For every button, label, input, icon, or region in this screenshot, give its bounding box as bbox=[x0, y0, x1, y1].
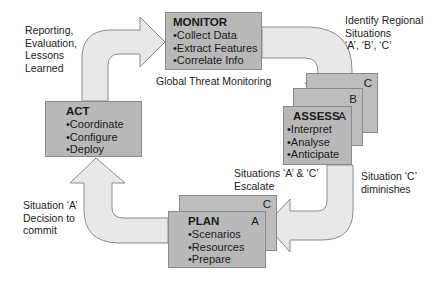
monitor-item: •Correlate Info bbox=[173, 54, 261, 67]
label-identify: Identify Regional Situations ‘A’, ‘B’, ‘… bbox=[345, 14, 423, 52]
monitor-item: •Collect Data bbox=[173, 29, 261, 42]
act-item: •Deploy bbox=[66, 143, 141, 156]
assess-item: •Analyse bbox=[287, 136, 351, 149]
plan-tag-a: A bbox=[251, 215, 259, 227]
arrow-act-to-monitor bbox=[82, 17, 165, 101]
assess-tag-a: A bbox=[338, 110, 346, 122]
label-escalate: Situations ‘A’ & ‘C’ Escalate bbox=[234, 167, 319, 192]
act-item: •Coordinate bbox=[66, 118, 141, 131]
monitor-caption: Global Threat Monitoring bbox=[156, 75, 271, 88]
arrow-plan-to-act bbox=[70, 158, 168, 243]
act-item: •Configure bbox=[66, 131, 141, 144]
monitor-title: MONITOR bbox=[173, 16, 261, 29]
assess-item: •Interpret bbox=[287, 123, 351, 136]
plan-box-a: A PLAN •Scenarios •Resources •Prepare bbox=[168, 211, 266, 268]
assess-item: •Anticipate bbox=[287, 148, 351, 161]
assess-box-a: A ASSESS •Interpret •Analyse •Anticipate bbox=[283, 106, 352, 165]
plan-item: •Prepare bbox=[188, 253, 265, 266]
assess-tag-b: B bbox=[349, 93, 357, 105]
act-title: ACT bbox=[66, 105, 141, 118]
monitor-item: •Extract Features bbox=[173, 42, 261, 55]
label-decision: Situation ‘A’ Decision to commit bbox=[23, 199, 78, 237]
monitor-box: MONITOR •Collect Data •Extract Features … bbox=[165, 12, 262, 70]
plan-item: •Scenarios bbox=[188, 228, 265, 241]
act-box: ACT •Coordinate •Configure •Deploy bbox=[45, 101, 142, 157]
plan-tag-c: C bbox=[263, 198, 271, 210]
plan-item: •Resources bbox=[188, 241, 265, 254]
assess-tag-c: C bbox=[364, 77, 372, 89]
label-reporting: Reporting, Evaluation, Lessons Learned bbox=[25, 24, 77, 74]
label-diminishes: Situation ‘C’ diminishes bbox=[361, 170, 417, 195]
